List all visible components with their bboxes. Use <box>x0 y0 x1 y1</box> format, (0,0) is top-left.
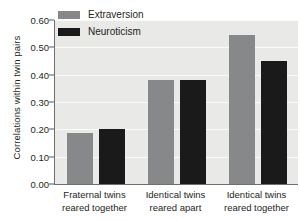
legend-item-neuroticism[interactable]: Neuroticism <box>58 26 144 38</box>
x-category-label-line: Identical twins <box>216 188 297 201</box>
legend-label: Extraversion <box>88 9 144 21</box>
legend-swatch-extraversion <box>58 11 80 19</box>
y-tick-label: 0.50 <box>14 42 49 53</box>
bar-neuroticism-group-2 <box>180 80 206 184</box>
legend-swatch-neuroticism <box>58 28 80 36</box>
bar-chart: Correlations within twin pairs 0.000.100… <box>0 0 300 221</box>
gridline <box>55 47 298 48</box>
bar-extraversion-group-2 <box>148 80 174 184</box>
y-tick-label: 0.60 <box>14 15 49 26</box>
x-category-label-line: Identical twins <box>135 188 216 201</box>
y-tick-label: 0.30 <box>14 97 49 108</box>
x-category-label-line: reared together <box>216 201 297 214</box>
y-tick-label: 0.40 <box>14 69 49 80</box>
y-tick-label: 0.00 <box>14 179 49 190</box>
y-tick-label: 0.10 <box>14 151 49 162</box>
x-axis-category-labels: Fraternal twinsreared togetherIdentical … <box>54 188 297 221</box>
bar-neuroticism-group-3 <box>261 61 287 184</box>
bar-extraversion-group-3 <box>229 35 255 184</box>
y-tick-label: 0.20 <box>14 124 49 135</box>
plot-area <box>54 20 298 185</box>
x-category-label-3: Identical twinsreared together <box>216 188 297 214</box>
legend-label: Neuroticism <box>88 26 141 38</box>
x-category-label-line: reared apart <box>135 201 216 214</box>
bar-neuroticism-group-1 <box>99 129 125 184</box>
chart-legend: ExtraversionNeuroticism <box>58 9 144 43</box>
x-category-label-line: reared together <box>54 201 135 214</box>
legend-item-extraversion[interactable]: Extraversion <box>58 9 144 21</box>
bar-extraversion-group-1 <box>67 133 93 184</box>
x-category-label-1: Fraternal twinsreared together <box>54 188 135 214</box>
x-category-label-2: Identical twinsreared apart <box>135 188 216 214</box>
x-category-label-line: Fraternal twins <box>54 188 135 201</box>
y-axis-tick-labels: 0.000.100.200.300.400.500.60 <box>14 20 49 184</box>
